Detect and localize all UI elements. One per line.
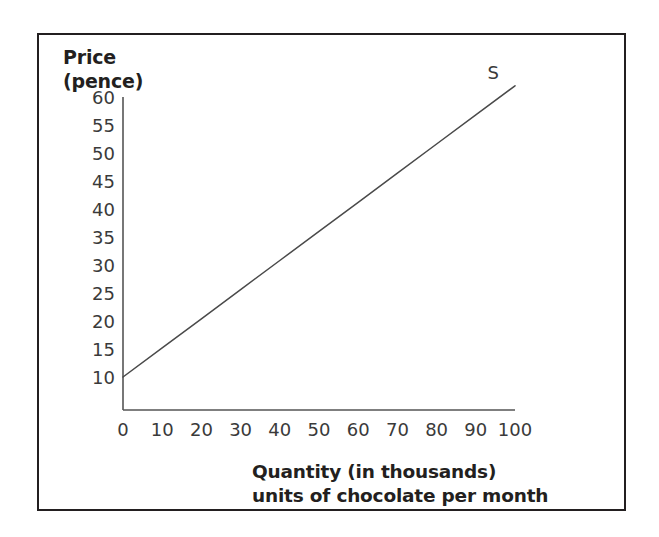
y-tick-label: 25 [79, 283, 115, 304]
figure-border: Price (pence) 1015202530354045505560 010… [37, 33, 626, 511]
x-tick-label: 80 [425, 419, 448, 440]
y-tick-label: 15 [79, 339, 115, 360]
y-tick-label: 50 [79, 143, 115, 164]
chart-canvas [39, 35, 628, 513]
y-tick-label: 30 [79, 255, 115, 276]
x-tick-label: 100 [498, 419, 532, 440]
x-tick-label: 40 [268, 419, 291, 440]
x-axis-title: Quantity (in thousands) units of chocola… [252, 460, 548, 508]
y-tick-label: 10 [79, 367, 115, 388]
chart-plot-area: Price (pence) 1015202530354045505560 010… [39, 35, 624, 509]
supply-curve-line [123, 86, 515, 377]
y-tick-label: 35 [79, 227, 115, 248]
x-tick-label: 30 [229, 419, 252, 440]
x-tick-label: 90 [464, 419, 487, 440]
y-tick-label: 60 [79, 87, 115, 108]
series-group [123, 86, 515, 377]
x-tick-label: 10 [151, 419, 174, 440]
y-tick-label: 45 [79, 171, 115, 192]
x-tick-label: 50 [308, 419, 331, 440]
x-tick-label: 70 [386, 419, 409, 440]
series-label-s: S [487, 62, 498, 83]
y-tick-label: 40 [79, 199, 115, 220]
x-tick-label: 60 [347, 419, 370, 440]
axis-lines [123, 97, 515, 410]
x-tick-label: 0 [117, 419, 128, 440]
y-tick-label: 55 [79, 115, 115, 136]
x-tick-label: 20 [190, 419, 213, 440]
y-tick-label: 20 [79, 311, 115, 332]
